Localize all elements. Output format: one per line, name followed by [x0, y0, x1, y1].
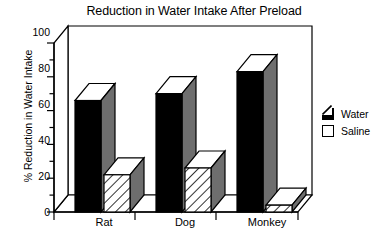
bar-dog-saline	[185, 151, 225, 212]
bar-monkey-water	[237, 55, 277, 212]
legend-label-water: Water	[341, 108, 369, 120]
legend-swatch-saline-icon	[322, 125, 334, 137]
legend-label-saline: Saline	[341, 125, 370, 137]
y-axis-ticks	[47, 43, 54, 212]
legend-item-saline: Saline	[322, 122, 370, 139]
bar-chart: Reduction in Water Intake After Preload …	[0, 0, 388, 238]
x-tick-monkey: Monkey	[227, 216, 307, 228]
x-tick-rat: Rat	[64, 216, 144, 228]
chart-legend: Water Saline	[322, 105, 370, 139]
x-tick-dog: Dog	[145, 216, 225, 228]
